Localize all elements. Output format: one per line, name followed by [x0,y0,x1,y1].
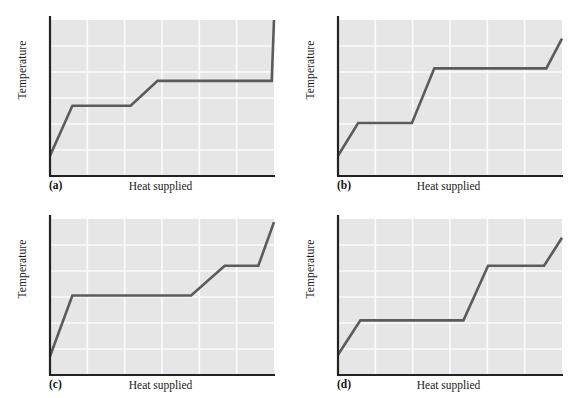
y-axis-label-a: Temperature [14,0,30,150]
x-axis-label-a: Heat supplied [48,179,273,193]
chart-plot-b [288,0,576,199]
chart-plot-d [288,199,576,398]
y-axis-label-b: Temperature [302,0,318,150]
chart-plot-a [0,0,288,199]
x-axis-label-d: Heat supplied [336,378,561,392]
chart-plot-c [0,199,288,398]
heating-curves-figure: Temperature (a) Heat supplied Temperatur… [0,0,576,398]
chart-panel-d: Temperature (d) Heat supplied [288,199,576,398]
x-axis-label-b: Heat supplied [336,179,561,193]
chart-panel-a: Temperature (a) Heat supplied [0,0,288,199]
chart-panel-b: Temperature (b) Heat supplied [288,0,576,199]
y-axis-label-d: Temperature [302,189,318,349]
chart-panel-c: Temperature (c) Heat supplied [0,199,288,398]
x-axis-label-c: Heat supplied [48,378,273,392]
y-axis-label-c: Temperature [14,189,30,349]
